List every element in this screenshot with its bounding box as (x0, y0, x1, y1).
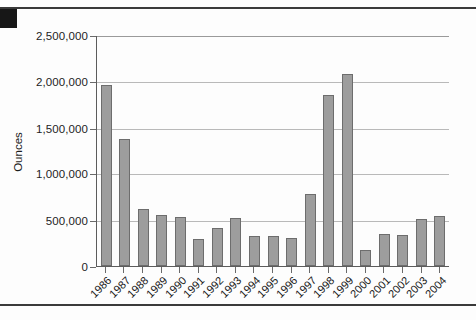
bar-chart: Ounces 2,500,000 2,000,000 1,500,000 1,0… (0, 0, 476, 320)
y-axis-tick-label: 2,000,000 (36, 76, 88, 88)
bar-slot (394, 36, 413, 266)
bar-1990 (175, 217, 186, 266)
bar-slot (319, 36, 338, 266)
bar-series (97, 36, 449, 266)
x-axis-labels: 1986 1987 1988 1989 1990 1991 1992 1993 … (96, 273, 449, 318)
bar-1999 (342, 74, 353, 266)
bar-1996 (286, 238, 297, 266)
bar-slot (116, 36, 135, 266)
bar-2002 (397, 235, 408, 266)
scanned-page: Ounces 2,500,000 2,000,000 1,500,000 1,0… (0, 0, 476, 320)
y-axis-tick-label: 1,500,000 (36, 123, 88, 135)
bar-slot (134, 36, 153, 266)
bar-1998 (323, 95, 334, 266)
bar-slot (208, 36, 227, 266)
bar-slot (171, 36, 190, 266)
bar-slot (190, 36, 209, 266)
bar-slot (431, 36, 450, 266)
bar-slot (375, 36, 394, 266)
bar-1995 (268, 236, 279, 266)
bar-1989 (156, 215, 167, 266)
bar-1988 (138, 209, 149, 266)
bar-1992 (212, 228, 223, 266)
bar-slot (356, 36, 375, 266)
bar-slot (227, 36, 246, 266)
bar-slot (264, 36, 283, 266)
y-axis-tick-label: 0 (82, 261, 89, 273)
y-axis-labels: 2,500,000 2,000,000 1,500,000 1,000,000 … (0, 0, 88, 320)
bar-2001 (379, 234, 390, 266)
bar-slot (412, 36, 431, 266)
bar-slot (338, 36, 357, 266)
bar-1986 (101, 85, 112, 266)
bar-2004 (434, 216, 445, 266)
bar-2000 (360, 250, 371, 266)
bar-1991 (193, 239, 204, 266)
bar-slot (282, 36, 301, 266)
y-axis-tick-label: 500,000 (46, 215, 88, 227)
bar-slot (301, 36, 320, 266)
y-axis-tick-label: 1,000,000 (36, 168, 88, 180)
bar-1987 (119, 139, 130, 267)
plot-area (96, 36, 449, 267)
bar-1994 (249, 236, 260, 266)
bar-1993 (230, 218, 241, 267)
bar-1997 (305, 194, 316, 266)
y-axis-tick-label: 2,500,000 (36, 30, 88, 42)
bar-slot (245, 36, 264, 266)
page-rule-bottom (0, 304, 476, 306)
bar-slot (153, 36, 172, 266)
bar-2003 (416, 219, 427, 266)
bar-slot (97, 36, 116, 266)
